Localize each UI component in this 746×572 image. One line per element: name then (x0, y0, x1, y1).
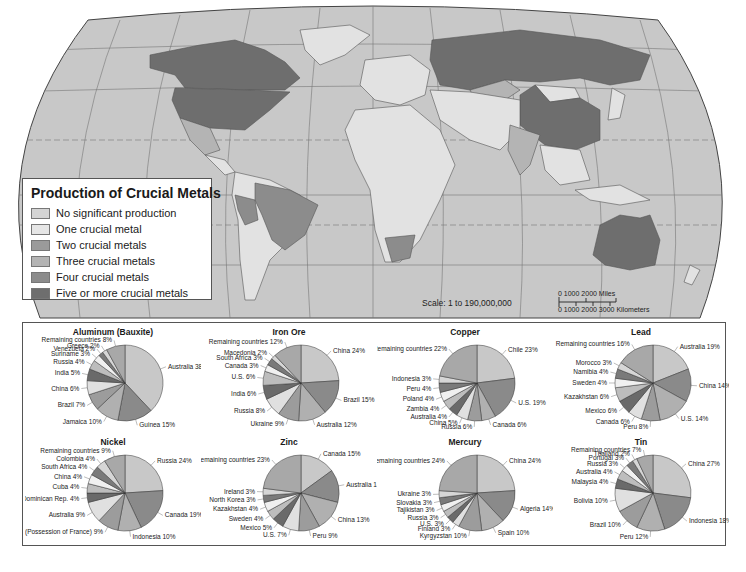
pie-slice-label: Slovakia 3% (396, 499, 432, 506)
pie-slice-label: South Africa 4% (41, 463, 87, 470)
swatch-none (31, 208, 50, 219)
pie-graphic: Australia 19%China 14%U.S. 14%Peru 8%Can… (553, 325, 729, 435)
pie-slice-label: India 6% (231, 390, 257, 397)
pie-slice-label: Remaining countries 22% (377, 345, 447, 353)
legend-label: Five or more crucial metals (56, 287, 188, 299)
pie-slice-label: New Caledonia (Possession of France) 9% (25, 528, 103, 536)
pie-slice-label: Indonesia 10% (133, 533, 176, 540)
pie-graphic: China 24%Algeria 14%Spain 10%Kyrgyzstan … (377, 435, 553, 545)
pie-slice-label: Remaining countries 12% (209, 338, 283, 346)
pie-graphic: Canada 15%Australia 14%China 13%Peru 9%U… (201, 435, 377, 545)
pie-slice-label: Remaining countries 24% (377, 457, 445, 465)
legend-item-three: Three crucial metals (31, 253, 203, 269)
pie-slice-label: Mexico 5% (240, 524, 272, 531)
scale-miles: 0 1000 2000 Miles (558, 290, 615, 297)
pie-slice-label: Remaining countries 9% (40, 447, 111, 455)
pie-slice-label: India 5% (55, 369, 81, 376)
pie-slice-label: Malaysia 4% (572, 478, 609, 486)
pie-slice-label: Peru 4% (406, 385, 431, 392)
pie-graphic: China 24%Brazil 15%Australia 12%Ukraine … (201, 325, 377, 435)
pie-graphic: China 27%Indonesia 18%Peru 12%Brazil 10%… (553, 435, 729, 545)
pie-slice-label: Spain 10% (498, 529, 530, 537)
legend-label: One crucial metal (56, 223, 142, 235)
pie-slice-label: Sweden 4% (229, 515, 264, 522)
pie-slice-label: Kazakhstan 6% (564, 393, 609, 400)
swatch-four (31, 272, 50, 283)
legend-label: Two crucial metals (56, 239, 146, 251)
pie-chart-lead: Australia 19%China 14%U.S. 14%Peru 8%Can… (553, 325, 729, 435)
pie-slice-label: China 24% (333, 347, 365, 354)
swatch-three (31, 256, 50, 267)
pie-slice-label: Remaining countries 23% (201, 456, 270, 464)
pie-slice-label: Morocco 3% (576, 359, 612, 366)
pie-slice-label: Macedonia 2% (224, 349, 267, 356)
pie-graphic: Australia 38%Guinea 15%Jamaica 10%Brazil… (25, 325, 201, 435)
legend-item-none: No significant production (31, 205, 203, 221)
pie-slice-label: China 4% (54, 473, 82, 480)
pie-slice-label: Russia 4% (53, 358, 84, 365)
pie-slice-label: U.S. 7% (263, 531, 287, 538)
pie-slice-label: Peru 9% (313, 532, 338, 539)
pie-chart-aluminum: Australia 38%Guinea 15%Jamaica 10%Brazil… (25, 325, 201, 435)
pie-slice-label: U.S. 3% (420, 520, 444, 527)
pie-slice-label: Remaining countries 7% (571, 446, 642, 454)
pie-slice-label: Sweden 4% (572, 379, 607, 386)
pie-chart-copper: Chile 23%U.S. 19%Canada 6%Russia 6%China… (377, 325, 553, 435)
pie-slice-label: China 24% (509, 457, 541, 464)
pie-slice-label: Russia 24% (157, 457, 192, 464)
legend-item-one: One crucial metal (31, 221, 203, 237)
pie-slice-label: Cuba 4% (53, 483, 80, 490)
pie-slice-label: U.S. 6% (232, 373, 256, 380)
scale-label: Scale: 1 to 190,000,000 (422, 298, 512, 308)
pie-slice-label: North Korea 3% (209, 496, 255, 503)
australia (593, 215, 660, 270)
pie-slice-label: Colombia 4% (56, 455, 95, 462)
pie-slice-label: Canada 6% (493, 421, 527, 428)
pie-title: Copper (377, 327, 553, 337)
pie-chart-mercury: China 24%Algeria 14%Spain 10%Kyrgyzstan … (377, 435, 553, 545)
pie-title: Tin (553, 437, 729, 447)
pie-title: Nickel (25, 437, 201, 447)
pie-slice-label: Brazil 15% (343, 396, 374, 403)
pie-chart-zinc: Canada 15%Australia 14%China 13%Peru 9%U… (201, 435, 377, 545)
legend-label: Four crucial metals (56, 271, 149, 283)
pie-slice-label: Canada 3% (225, 362, 259, 369)
pie-slice-label: Algeria 14% (520, 505, 553, 513)
pie-title: Aluminum (Bauxite) (25, 327, 201, 337)
pie-slice-label: Australia 14% (346, 481, 377, 488)
pie-slice-label: Indonesia 18% (689, 517, 729, 524)
pie-slice-label: Kyrgyzstan 10% (420, 532, 467, 540)
pie-slice-label: Australia 9% (49, 511, 86, 518)
pie-slice-label: China 14% (699, 382, 729, 389)
pie-title: Mercury (377, 437, 553, 447)
pie-slice-label: U.S. 14% (681, 415, 709, 422)
pie-slice-label: Poland 4% (403, 395, 435, 402)
pie-slice-label: Ireland 3% (224, 488, 255, 495)
legend-item-four: Four crucial metals (31, 269, 203, 285)
legend-label: Three crucial metals (56, 255, 155, 267)
pie-slice-label: Indonesia 3% (392, 375, 432, 382)
pie-slice-label: China 13% (338, 516, 370, 523)
pie-chart-tin: China 27%Indonesia 18%Peru 12%Brazil 10%… (553, 435, 729, 545)
pie-slice-label: Zambia 4% (407, 405, 440, 412)
pie-slice-label: Russia 8% (234, 407, 265, 414)
pie-title: Lead (553, 327, 729, 337)
map-legend: Production of Crucial Metals No signific… (22, 178, 212, 300)
pie-slice-label: Australia 19% (680, 343, 720, 350)
pie-title: Iron Ore (201, 327, 377, 337)
pie-slice-label: Australia 38% (168, 363, 201, 370)
pie-graphic: Chile 23%U.S. 19%Canada 6%Russia 6%China… (377, 325, 553, 435)
swatch-five (31, 288, 50, 299)
pie-slice-label: Brazil 7% (58, 401, 86, 408)
pie-slice-label: Guinea 15% (139, 421, 175, 428)
pie-slice-label: Canada 6% (596, 418, 630, 425)
legend-item-two: Two crucial metals (31, 237, 203, 253)
pie-slice-label: Namibia 4% (573, 368, 608, 375)
pie-slice-label: Jamaica 10% (63, 418, 102, 425)
pie-charts-panel: Australia 38%Guinea 15%Jamaica 10%Brazil… (22, 322, 726, 546)
pie-slice-label: China 6% (51, 385, 79, 392)
pie-slice-label: Brazil 10% (590, 521, 621, 528)
pie-slice-label: Remaining countries 8% (42, 336, 113, 344)
pie-slice-label: Australia 12% (317, 421, 357, 428)
pie-slice-label: Ukraine 9% (250, 420, 284, 427)
